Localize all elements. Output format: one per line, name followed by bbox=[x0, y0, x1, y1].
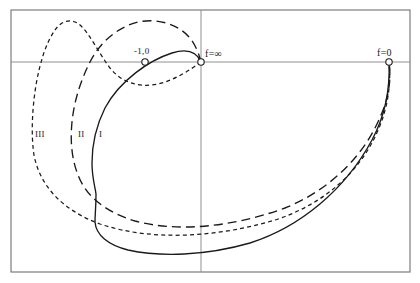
nyquist-plot-svg bbox=[0, 0, 420, 283]
f-zero-marker bbox=[386, 59, 392, 65]
figure-container: -1,0 f=∞ f=0 I II III bbox=[0, 0, 420, 283]
curve-one-label: I bbox=[99, 129, 102, 139]
critical-point-label: -1,0 bbox=[134, 46, 149, 56]
critical-point-marker bbox=[142, 59, 148, 65]
f-infinity-label: f=∞ bbox=[205, 48, 222, 59]
curve-two-label: II bbox=[78, 129, 85, 139]
f-zero-label: f=0 bbox=[377, 47, 392, 58]
f-infinity-marker bbox=[198, 59, 204, 65]
curve-three-label: III bbox=[35, 129, 45, 139]
curve-one-path bbox=[92, 51, 389, 254]
curve-two-path bbox=[71, 21, 390, 227]
